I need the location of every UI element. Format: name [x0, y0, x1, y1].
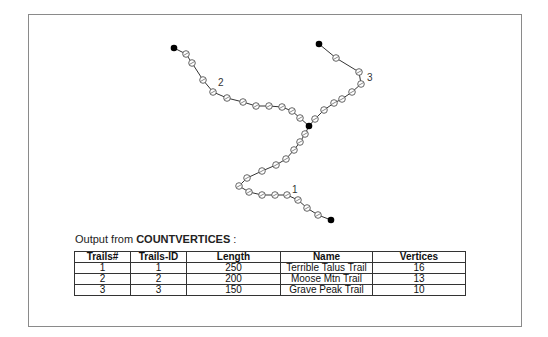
- cell-trails-num: 2: [75, 274, 131, 285]
- table-row: 2 2 200 Moose Mtn Trail 13: [75, 274, 466, 285]
- caption-command: COUNTVERTICES: [136, 233, 230, 245]
- header-name: Name: [281, 252, 373, 263]
- trail-label: 2: [218, 77, 224, 88]
- header-vertices: Vertices: [373, 252, 466, 263]
- cell-vertices: 13: [373, 274, 466, 285]
- cell-trails-id: 1: [131, 263, 187, 274]
- cell-length: 250: [187, 263, 281, 274]
- output-caption: Output from COUNTVERTICES :: [75, 233, 236, 245]
- cell-trails-num: 3: [75, 285, 131, 296]
- cell-length: 200: [187, 274, 281, 285]
- endpoint-node: [316, 41, 323, 48]
- cell-vertices: 16: [373, 263, 466, 274]
- endpoint-node: [328, 217, 335, 224]
- cell-length: 150: [187, 285, 281, 296]
- table-header-row: Trails# Trails-ID Length Name Vertices: [75, 252, 466, 263]
- header-trails-id: Trails-ID: [131, 252, 187, 263]
- cell-trails-id: 3: [131, 285, 187, 296]
- cell-trails-num: 1: [75, 263, 131, 274]
- cell-vertices: 10: [373, 285, 466, 296]
- trail-label: 1: [292, 184, 298, 195]
- trail-label: 3: [367, 72, 373, 83]
- header-length: Length: [187, 252, 281, 263]
- countvertices-table: Trails# Trails-ID Length Name Vertices 1…: [74, 251, 466, 296]
- trail-1: 1: [236, 126, 331, 220]
- cell-name: Moose Mtn Trail: [281, 274, 373, 285]
- header-trails-num: Trails#: [75, 252, 131, 263]
- table-row: 3 3 150 Grave Peak Trail 10: [75, 285, 466, 296]
- cell-name: Terrible Talus Trail: [281, 263, 373, 274]
- endpoint-node: [306, 123, 313, 130]
- trail-line: [174, 48, 309, 126]
- cell-trails-id: 2: [131, 274, 187, 285]
- caption-prefix: Output from: [75, 233, 136, 245]
- cell-name: Grave Peak Trail: [281, 285, 373, 296]
- endpoint-node: [171, 45, 178, 52]
- trail-line: [239, 126, 331, 220]
- table-row: 1 1 250 Terrible Talus Trail 16: [75, 263, 466, 274]
- trail-2: 2: [174, 48, 309, 126]
- caption-suffix: :: [230, 233, 236, 245]
- trail-3: 3: [309, 44, 373, 126]
